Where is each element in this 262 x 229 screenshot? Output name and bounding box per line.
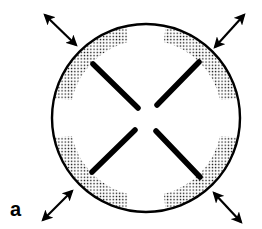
diagram-figure xyxy=(0,0,262,229)
inner-segments xyxy=(92,62,200,177)
stippled-regions xyxy=(55,26,238,210)
outer-circle xyxy=(52,24,240,212)
segment-upper-left xyxy=(93,64,138,108)
segment-lower-left xyxy=(92,130,135,172)
double-arrow-icon-bottom-left xyxy=(43,191,72,220)
segment-lower-right xyxy=(156,131,200,177)
double-arrow-icon-top-left xyxy=(45,15,76,45)
double-arrow-icon-bottom-right xyxy=(214,193,241,222)
panel-label: a xyxy=(10,199,21,219)
segment-upper-right xyxy=(157,62,199,105)
double-arrows xyxy=(43,15,244,222)
double-arrow-icon-top-right xyxy=(215,15,244,47)
